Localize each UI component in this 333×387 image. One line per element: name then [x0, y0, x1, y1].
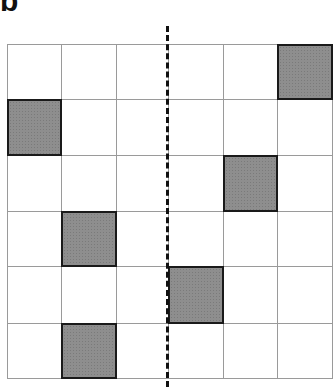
grid-cell — [116, 323, 169, 379]
grid-cell — [7, 211, 62, 267]
grid-cell — [116, 44, 169, 100]
grid-cell — [223, 211, 278, 267]
grid-cell — [168, 211, 224, 267]
grid-cell — [223, 323, 278, 379]
shaded-grid-cell — [61, 211, 117, 267]
grid-cell — [61, 266, 117, 324]
grid-cell — [116, 211, 169, 267]
shaded-grid-cell — [7, 99, 62, 156]
grid-cell — [7, 155, 62, 212]
grid-cell — [168, 323, 224, 379]
grid-cell — [61, 155, 117, 212]
grid-cell — [277, 266, 333, 324]
grid-cell — [223, 99, 278, 156]
panel-label: b — [0, 0, 18, 16]
shaded-grid-cell — [277, 44, 333, 100]
grid-cell — [61, 44, 117, 100]
grid-cell — [116, 266, 169, 324]
grid-cell — [168, 155, 224, 212]
grid-cell — [7, 323, 62, 379]
grid-cell — [61, 99, 117, 156]
grid-cell — [7, 266, 62, 324]
shaded-grid-cell — [61, 323, 117, 379]
grid-cell — [7, 44, 62, 100]
grid-cell — [168, 44, 224, 100]
dashed-divider-line — [166, 26, 169, 387]
grid-cell — [277, 99, 333, 156]
grid-cell — [116, 99, 169, 156]
grid-cell — [116, 155, 169, 212]
grid-cell — [223, 44, 278, 100]
shaded-grid-cell — [168, 266, 224, 324]
grid-cell — [277, 155, 333, 212]
shaded-grid-cell — [223, 155, 278, 212]
grid-cell — [277, 211, 333, 267]
grid-cell — [223, 266, 278, 324]
grid-cell — [168, 99, 224, 156]
grid-cell — [277, 323, 333, 379]
